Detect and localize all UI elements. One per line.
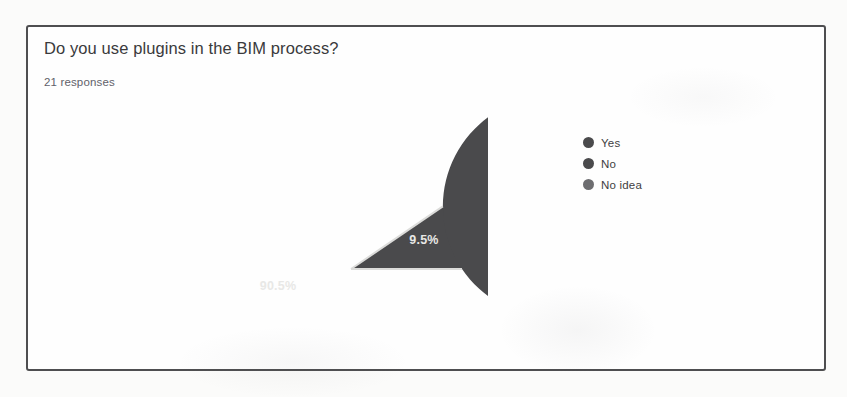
legend-swatch-no-idea-icon bbox=[583, 179, 594, 190]
chart-legend: Yes No No idea bbox=[583, 132, 723, 195]
pie-label-no: 9.5% bbox=[409, 233, 438, 247]
pie-chart-svg: 90.5% 9.5% bbox=[188, 109, 488, 359]
legend-item-no-idea[interactable]: No idea bbox=[583, 174, 723, 195]
legend-swatch-yes-icon bbox=[583, 137, 594, 148]
pie-slice-yes[interactable] bbox=[351, 109, 488, 318]
form-response-card: Do you use plugins in the BIM process? 2… bbox=[26, 25, 826, 371]
legend-item-yes[interactable]: Yes bbox=[583, 132, 723, 153]
pie-chart-area: 90.5% 9.5% Yes No No idea bbox=[28, 27, 828, 373]
pie-label-yes: 90.5% bbox=[260, 279, 296, 293]
legend-label-yes: Yes bbox=[601, 136, 620, 150]
legend-swatch-no-icon bbox=[583, 158, 594, 169]
legend-item-no[interactable]: No bbox=[583, 153, 723, 174]
legend-label-no-idea: No idea bbox=[601, 178, 642, 192]
legend-label-no: No bbox=[601, 157, 616, 171]
